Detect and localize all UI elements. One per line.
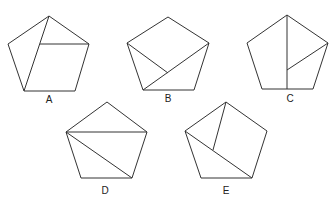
option-label: D xyxy=(101,185,108,196)
pentagon-a: A xyxy=(8,16,89,105)
dissection-line xyxy=(143,43,209,90)
option-label: A xyxy=(46,94,53,105)
option-label: C xyxy=(286,93,293,104)
dissection-line xyxy=(213,102,226,150)
dissection-line xyxy=(185,131,252,178)
pentagon-dissection-figure: ABCDE xyxy=(0,0,334,201)
pentagon-outline xyxy=(8,16,89,91)
pentagon-c: C xyxy=(247,15,328,104)
pentagon-e: E xyxy=(185,102,267,196)
pentagon-d: D xyxy=(66,102,147,196)
dissection-line xyxy=(66,132,132,178)
option-label: E xyxy=(223,185,230,196)
pentagon-b: B xyxy=(127,17,209,104)
option-label: B xyxy=(165,93,172,104)
dissection-line xyxy=(24,16,49,91)
pentagons-group: ABCDE xyxy=(8,15,328,196)
dissection-line xyxy=(127,43,168,73)
dissection-line xyxy=(287,43,328,70)
pentagon-outline xyxy=(127,17,209,90)
